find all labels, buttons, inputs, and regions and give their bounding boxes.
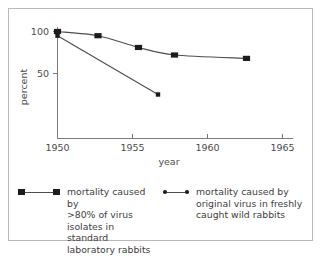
x-tick-label-1950: 1950 [45, 142, 69, 153]
x-tick-label-1960: 1960 [195, 142, 219, 153]
data-point-s1-1 [156, 92, 160, 96]
data-point-s0-2 [135, 45, 142, 50]
x-tick-label-1965: 1965 [270, 142, 294, 153]
x-axis-title: year [158, 156, 179, 167]
legend-marker-square-line [18, 187, 60, 199]
series-line-1 [58, 36, 159, 95]
data-point-s0-4 [243, 56, 250, 61]
series-layer [54, 29, 250, 97]
data-point-s0-3 [171, 52, 178, 57]
series-line-0 [58, 32, 247, 59]
x-tick-label-1955: 1955 [120, 142, 144, 153]
data-point-s1-0 [55, 34, 59, 38]
y-axis-title: percent [18, 69, 29, 106]
legend-entry-wild-rabbits[interactable]: mortality caused by original virus in fr… [163, 186, 313, 221]
chart-legend: mortality caused by >80% of virus isolat… [8, 182, 313, 242]
legend-label-lab-rabbits: mortality caused by >80% of virus isolat… [67, 186, 158, 256]
legend-entry-lab-rabbits[interactable]: mortality caused by >80% of virus isolat… [18, 186, 158, 256]
data-point-s0-1 [94, 33, 101, 38]
data-point-s0-0 [54, 29, 61, 34]
y-tick-label-100: 100 [31, 26, 49, 37]
legend-label-wild-rabbits: mortality caused by original virus in fr… [196, 186, 302, 221]
y-tick-label-50: 50 [37, 68, 49, 79]
legend-marker-dot-line [163, 187, 189, 199]
